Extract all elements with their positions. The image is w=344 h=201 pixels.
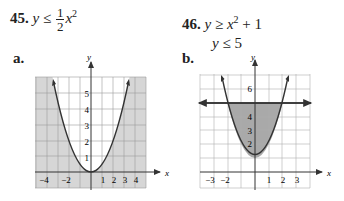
svg-text:2: 2	[85, 137, 90, 147]
svg-text:1: 1	[267, 175, 272, 185]
svg-text:−2: −2	[61, 175, 71, 185]
svg-text:3: 3	[123, 175, 128, 185]
svg-text:3: 3	[248, 126, 253, 136]
svg-text:4: 4	[248, 112, 253, 122]
svg-text:2: 2	[248, 139, 253, 149]
svg-text:2: 2	[112, 175, 117, 185]
svg-text:x: x	[326, 168, 331, 178]
svg-text:5: 5	[85, 89, 90, 99]
svg-text:y: y	[250, 52, 255, 62]
svg-text:1: 1	[101, 175, 106, 185]
graph-b: y x −3 −2 1 2 3 2 3 4 6	[199, 52, 331, 190]
svg-text:−3: −3	[205, 175, 215, 185]
graph-a: y x −4 −2 1 2 3 4 1 2 3 4 5	[35, 52, 169, 190]
svg-text:−4: −4	[39, 175, 49, 185]
svg-text:3: 3	[85, 121, 90, 131]
y-tick-labels: 2 3 4 6	[248, 84, 253, 149]
svg-text:4: 4	[134, 175, 139, 185]
svg-text:y: y	[86, 52, 91, 62]
svg-text:3: 3	[295, 175, 300, 185]
svg-text:1: 1	[85, 153, 90, 163]
svg-text:2: 2	[281, 175, 286, 185]
svg-text:−2: −2	[220, 175, 230, 185]
svg-text:6: 6	[248, 84, 253, 94]
graphs-canvas: y x −4 −2 1 2 3 4 1 2 3 4 5	[0, 0, 344, 201]
svg-text:4: 4	[85, 105, 90, 115]
svg-text:x: x	[164, 168, 169, 178]
